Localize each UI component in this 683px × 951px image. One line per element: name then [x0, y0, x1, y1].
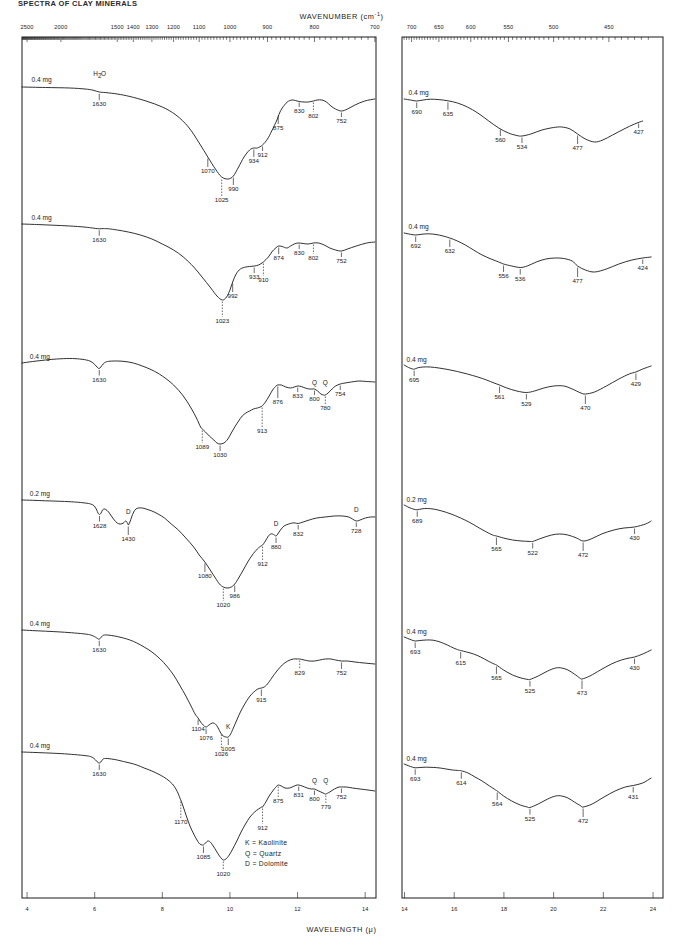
band-label-614: 614: [456, 779, 467, 786]
mineral-mark-quartz-780: Q: [323, 379, 328, 387]
spectrum-4-right-trace: [404, 505, 651, 542]
band-label-1076: 1076: [199, 734, 213, 741]
band-label-632: 632: [445, 247, 456, 254]
band-label-910: 910: [258, 276, 269, 283]
band-label-529: 529: [521, 400, 532, 407]
left-panel-frame: [22, 37, 376, 898]
band-label-1023: 1023: [215, 317, 229, 324]
band-label-1430: 1430: [121, 535, 135, 542]
band-label-833: 833: [293, 392, 304, 399]
mineral-mark-quartz-6-800: Q: [312, 777, 317, 785]
legend-item-0: K = Kaolinite: [245, 839, 287, 846]
sample-amount-5-right: 0.4 mg: [407, 628, 427, 636]
band-label-2-830: 830: [294, 249, 305, 256]
band-label-934: 934: [249, 157, 260, 164]
band-label-695: 695: [409, 376, 420, 383]
sample-amount-1-right: 0.4 mg: [409, 89, 429, 97]
spectrum-6-right-trace: [404, 764, 651, 808]
spectra-figure: 0.4 mgH2O1630107010259909349128758308027…: [0, 0, 683, 951]
band-label-5-430: 430: [629, 664, 640, 671]
band-label-6-752: 752: [336, 793, 347, 800]
band-label-430: 430: [629, 534, 640, 541]
band-label-5-693: 693: [410, 648, 421, 655]
sample-amount-1-left: 0.4 mg: [32, 76, 52, 84]
band-label-832: 832: [293, 530, 304, 537]
band-label-1630: 1630: [92, 100, 106, 107]
band-label-690: 690: [412, 108, 423, 115]
band-label-912: 912: [257, 151, 268, 158]
sample-amount-3-left: 0.4 mg: [30, 353, 50, 361]
band-label-2-477: 477: [572, 277, 583, 284]
band-label-880: 880: [271, 543, 282, 550]
band-label-5-565: 565: [491, 674, 502, 681]
band-label-1080: 1080: [198, 572, 212, 579]
sample-amount-6-left: 0.4 mg: [30, 742, 50, 750]
mineral-mark-dolomite-728: D: [354, 506, 359, 513]
band-label-429: 429: [631, 380, 642, 387]
band-label-431: 431: [628, 793, 639, 800]
band-label-754: 754: [335, 390, 346, 397]
mineral-mark-dolomite-880: D: [274, 520, 279, 527]
band-label-5-829: 829: [295, 669, 306, 676]
band-label-2-802: 802: [308, 254, 319, 261]
mineral-mark-quartz-800: Q: [312, 379, 317, 387]
band-label-477: 477: [572, 144, 583, 151]
sample-amount-6-right: 0.4 mg: [407, 755, 427, 763]
band-label-6-472: 472: [578, 817, 589, 824]
sample-amount-2-right: 0.4 mg: [409, 223, 429, 231]
band-label-6-912: 912: [257, 824, 268, 831]
band-label-1030: 1030: [213, 451, 227, 458]
band-label-5-1630: 1630: [92, 646, 106, 653]
legend-item-1: Q = Quartz: [245, 850, 282, 858]
sample-amount-5-left: 0.4 mg: [30, 620, 50, 628]
band-label-560: 560: [495, 136, 506, 143]
band-label-779: 779: [321, 803, 332, 810]
sample-amount-3-right: 0.4 mg: [407, 356, 427, 364]
band-label-470: 470: [580, 404, 591, 411]
band-label-689: 689: [412, 517, 423, 524]
band-label-5-915: 915: [256, 696, 267, 703]
mineral-mark-kaolinite-1005: K: [226, 723, 231, 730]
band-label-4-472: 472: [578, 551, 589, 558]
mineral-mark-dolomite-1430: D: [126, 508, 131, 515]
band-label-3-800: 800: [309, 395, 320, 402]
spectrum-1-left-trace: [22, 87, 375, 179]
band-label-5-752: 752: [336, 669, 347, 676]
band-label-802: 802: [308, 112, 319, 119]
band-label-6-525: 525: [525, 815, 536, 822]
band-label-986: 986: [230, 592, 241, 599]
band-label-1089: 1089: [195, 443, 209, 450]
band-label-990: 990: [228, 185, 239, 192]
band-label-424: 424: [638, 264, 649, 271]
band-label-561: 561: [494, 393, 505, 400]
band-label-752: 752: [336, 117, 347, 124]
spectrum-3-right-trace: [404, 365, 651, 394]
right-panel-frame: [402, 37, 663, 898]
spectrum-2-left-trace: [22, 224, 375, 300]
band-label-1085: 1085: [197, 853, 211, 860]
band-label-427: 427: [633, 128, 644, 135]
band-label-635: 635: [443, 110, 454, 117]
band-label-1170: 1170: [174, 818, 188, 825]
band-label-6-875: 875: [273, 797, 284, 804]
band-label-5-525: 525: [525, 687, 536, 694]
mineral-mark-quartz-6-779: Q: [323, 777, 328, 785]
band-label-780: 780: [320, 404, 331, 411]
band-label-6-1630: 1630: [92, 770, 106, 777]
band-label-556: 556: [498, 272, 509, 279]
band-label-874: 874: [274, 254, 285, 261]
band-label-1104: 1104: [191, 725, 205, 732]
spectrum-3-left-trace: [22, 359, 375, 445]
band-label-522: 522: [528, 549, 539, 556]
band-label-876: 876: [273, 398, 284, 405]
sample-amount-2-left: 0.4 mg: [32, 214, 52, 222]
sample-amount-4-left: 0.2 mg: [30, 490, 50, 498]
spectrum-1-right-trace: [404, 99, 643, 142]
band-label-1070: 1070: [201, 167, 215, 174]
band-label-4-1020: 1020: [216, 601, 230, 608]
band-label-615: 615: [456, 659, 467, 666]
band-label-473: 473: [577, 689, 588, 696]
sample-amount-4-right: 0.2 mg: [407, 496, 427, 504]
annotation-h2o-o: O: [101, 70, 106, 77]
band-label-6-693: 693: [410, 775, 421, 782]
